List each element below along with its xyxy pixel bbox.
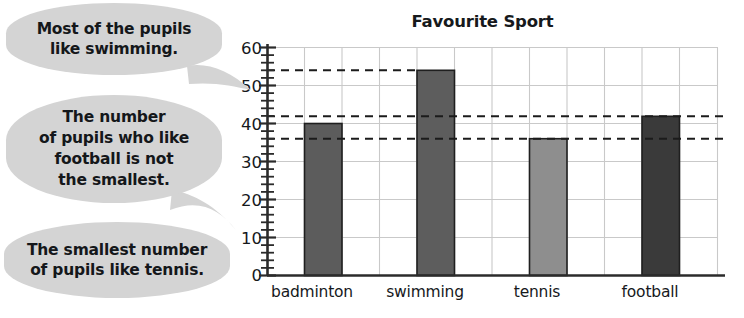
- bubble-football-line-3: football is not: [54, 149, 173, 170]
- bubble-tail-swimming: [185, 60, 255, 100]
- bar-tennis: [530, 139, 568, 276]
- bubble-football-line-2: of pupils who like: [39, 128, 189, 149]
- bar-badminton: [305, 124, 343, 276]
- bar-swimming: [417, 70, 455, 275]
- y-axis: [259, 44, 276, 276]
- bubble-swimming-line-2: like swimming.: [50, 39, 178, 59]
- bubble-football: The number of pupils who like football i…: [6, 95, 222, 203]
- bubble-tennis: The smallest number of pupils like tenni…: [4, 222, 230, 298]
- bubble-tennis-line-1: The smallest number: [27, 240, 207, 260]
- x-tick-label-tennis: tennis: [474, 283, 600, 301]
- worksheet-figure: Favourite Sport 60 50 40 30 20 10 0: [0, 0, 744, 318]
- bubble-swimming: Most of the pupils like swimming.: [6, 3, 222, 75]
- bubble-football-line-4: the smallest.: [58, 170, 169, 191]
- plot-area: [255, 36, 735, 286]
- x-tick-label-football: football: [587, 283, 713, 301]
- x-tick-label-swimming: swimming: [362, 283, 488, 301]
- bar-football: [642, 116, 680, 275]
- bubble-football-line-1: The number: [63, 107, 166, 128]
- x-tick-label-badminton: badminton: [249, 283, 375, 301]
- chart-title: Favourite Sport: [355, 12, 610, 31]
- bubble-swimming-line-1: Most of the pupils: [37, 19, 192, 39]
- bubble-tennis-line-2: of pupils like tennis.: [30, 260, 204, 280]
